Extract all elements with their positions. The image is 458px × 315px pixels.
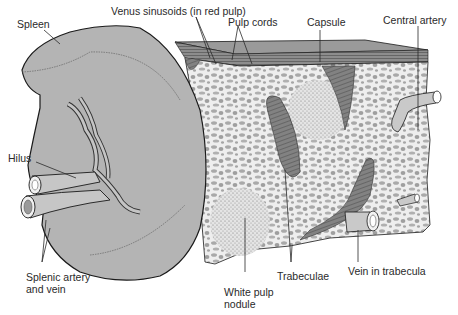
spleen-outline (22, 26, 206, 280)
label-venus-sinusoids: Venus sinusoids (in red pulp) (111, 5, 246, 17)
label-capsule: Capsule (307, 16, 346, 28)
label-vein-in-trabecula: Vein in trabecula (348, 265, 426, 277)
label-central-artery: Central artery (383, 14, 447, 26)
white-pulp-nodule-lower (210, 188, 270, 256)
label-pulp-cords: Pulp cords (228, 16, 278, 28)
label-spleen: Spleen (17, 18, 50, 30)
label-white-pulp-nodule: White pulp nodule (224, 286, 274, 310)
label-trabeculae: Trabeculae (277, 270, 329, 282)
vein-in-trabecula-vessel (345, 211, 379, 232)
label-hilus: Hilus (8, 152, 31, 164)
label-splenic-artery-and-vein: Splenic artery and vein (26, 271, 90, 295)
spleen-organ (21, 26, 206, 280)
tissue-block (175, 40, 441, 264)
